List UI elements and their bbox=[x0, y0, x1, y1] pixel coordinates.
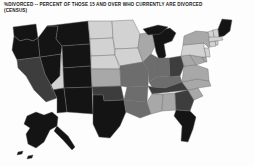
state-minnesota bbox=[112, 20, 140, 49]
chart-title-block: %DIVORCED -- PERCENT OF THOSE 15 AND OVE… bbox=[4, 2, 250, 14]
state-nebraska bbox=[91, 55, 120, 69]
us-choropleth-map bbox=[0, 14, 254, 166]
state-pennsylvania bbox=[181, 43, 206, 57]
alaska-panhandle bbox=[54, 126, 75, 150]
state-oregon bbox=[12, 36, 40, 60]
state-south-dakota bbox=[90, 38, 115, 56]
figure-panel: %DIVORCED -- PERCENT OF THOSE 15 AND OVE… bbox=[0, 0, 254, 166]
state-alabama bbox=[162, 93, 176, 111]
state-indiana bbox=[158, 58, 170, 77]
state-louisiana bbox=[124, 100, 151, 118]
state-texas bbox=[93, 95, 126, 138]
map-svg bbox=[0, 14, 254, 166]
state-alaska bbox=[24, 112, 58, 148]
state-missouri bbox=[120, 62, 149, 87]
state-maine bbox=[218, 19, 232, 37]
state-florida bbox=[174, 110, 196, 142]
alaska-aleutian-1 bbox=[17, 151, 23, 155]
state-colorado bbox=[63, 66, 92, 88]
state-arkansas bbox=[124, 86, 148, 102]
state-virginia bbox=[182, 65, 209, 82]
state-kansas bbox=[91, 69, 121, 87]
state-north-dakota bbox=[88, 21, 113, 39]
state-new-mexico bbox=[64, 87, 93, 114]
alaska-aleutian-2 bbox=[27, 155, 33, 159]
state-wyoming bbox=[62, 44, 91, 68]
